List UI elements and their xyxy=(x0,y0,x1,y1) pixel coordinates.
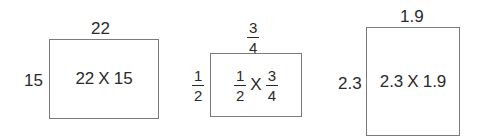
rect-3: 2.3 X 1.9 xyxy=(366,27,460,136)
rect-1-area-label: 22 X 15 xyxy=(75,69,132,89)
rect-2-area-label: 12 X 34 xyxy=(234,68,278,103)
times-sign: X xyxy=(98,69,109,89)
rect-2-right-fraction: 34 xyxy=(266,68,278,103)
times-sign: X xyxy=(250,75,261,95)
rect-2: 12 X 34 xyxy=(210,53,302,117)
rect-3-width-value: 1.9 xyxy=(423,72,447,92)
rect-1-side-label: 15 xyxy=(24,72,43,89)
rect-3-side-label: 2.3 xyxy=(338,75,362,92)
rect-3-top-label: 1.9 xyxy=(400,8,424,25)
rect-3-area-label: 2.3 X 1.9 xyxy=(380,72,447,92)
rect-1-height-value: 15 xyxy=(114,69,133,89)
times-sign: X xyxy=(407,72,418,92)
rect-1-top-label: 22 xyxy=(91,20,110,37)
rect-3-height-value: 2.3 xyxy=(380,72,404,92)
rect-2-side-label: 12 xyxy=(192,67,204,103)
rect-2-top-label: 34 xyxy=(247,19,259,55)
rect-1: 22 X 15 xyxy=(49,39,159,119)
rect-2-left-fraction: 12 xyxy=(234,68,246,103)
rect-1-width-value: 22 xyxy=(75,69,94,89)
